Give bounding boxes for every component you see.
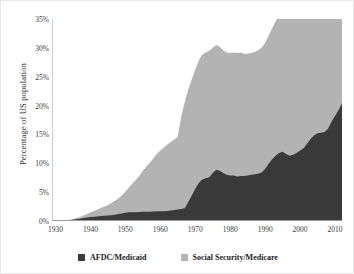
plot-svg xyxy=(52,19,342,221)
legend-label-afdc-medicaid: AFDC/Medicaid xyxy=(90,253,146,262)
x-tick-1950: 1950 xyxy=(118,225,133,234)
x-tick-2000: 2000 xyxy=(293,225,308,234)
y-tick-25: 25% xyxy=(19,72,49,81)
legend-item-social-security-medicare: Social Security/Medicare xyxy=(181,253,278,262)
legend-swatch-social-security-medicare xyxy=(181,254,188,261)
x-tick-1980: 1980 xyxy=(223,225,238,234)
figure-frame: Percentage of US population 0%5%10%15%20… xyxy=(0,0,354,274)
chart-legend: AFDC/Medicaid Social Security/Medicare xyxy=(1,249,354,265)
x-tick-1930: 1930 xyxy=(48,225,63,234)
x-tick-2010: 2010 xyxy=(328,225,343,234)
stacked-area-chart: Percentage of US population 0%5%10%15%20… xyxy=(1,1,354,274)
y-tick-35: 35% xyxy=(19,15,49,24)
legend-item-afdc-medicaid: AFDC/Medicaid xyxy=(78,253,146,262)
y-tick-10: 10% xyxy=(19,159,49,168)
plot-area xyxy=(52,19,342,221)
x-tick-1970: 1970 xyxy=(188,225,203,234)
x-tick-1960: 1960 xyxy=(153,225,168,234)
y-tick-5: 5% xyxy=(19,188,49,197)
legend-swatch-afdc-medicaid xyxy=(78,254,85,261)
legend-label-social-security-medicare: Social Security/Medicare xyxy=(193,253,278,262)
y-tick-15: 15% xyxy=(19,130,49,139)
x-tick-1940: 1940 xyxy=(83,225,98,234)
y-tick-30: 30% xyxy=(19,43,49,52)
x-axis-tick-labels: 193019401950196019701980199020002010 xyxy=(1,225,354,239)
y-tick-20: 20% xyxy=(19,101,49,110)
x-tick-1990: 1990 xyxy=(258,225,273,234)
